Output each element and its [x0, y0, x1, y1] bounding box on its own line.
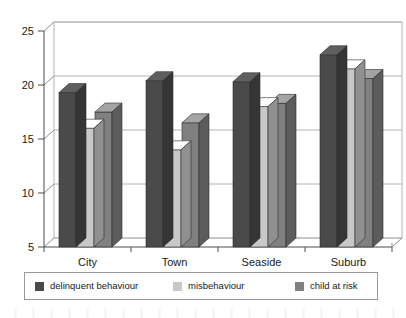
- x-axis-tick-label: Suburb: [331, 256, 366, 268]
- legend-item-delinquent-behaviour: delinquent behaviour: [35, 273, 138, 299]
- y-axis-tick-label: 15: [22, 133, 34, 145]
- legend-swatch-icon: [35, 282, 44, 291]
- legend-label: delinquent behaviour: [50, 281, 138, 291]
- x-axis-tick-label: Town: [162, 256, 188, 268]
- legend-label: child at risk: [310, 281, 358, 291]
- legend-item-child-at-risk: child at risk: [295, 273, 358, 299]
- legend-swatch-icon: [295, 282, 304, 291]
- bar-city-series-0: [59, 84, 86, 247]
- legend-item-misbehaviour: misbehaviour: [173, 273, 245, 299]
- x-axis-tick-label: City: [78, 256, 97, 268]
- chart-plot-area: 510152025CityTownSeasideSuburb: [0, 0, 406, 318]
- chart-legend: delinquent behaviour misbehaviour child …: [24, 272, 378, 300]
- bar-town-series-0: [146, 72, 173, 247]
- y-axis-tick-label: 20: [22, 79, 34, 91]
- legend-label: misbehaviour: [188, 281, 245, 291]
- bar-suburb-series-0: [320, 46, 347, 247]
- bar-seaside-series-0: [233, 73, 260, 247]
- y-axis-tick-label: 10: [22, 187, 34, 199]
- legend-swatch-icon: [173, 282, 182, 291]
- bar-chart-figure: 510152025CityTownSeasideSuburb delinquen…: [0, 0, 406, 318]
- y-axis-tick-label: 25: [22, 25, 34, 37]
- x-axis-tick-label: Seaside: [242, 256, 282, 268]
- y-axis-tick-label: 5: [28, 241, 34, 253]
